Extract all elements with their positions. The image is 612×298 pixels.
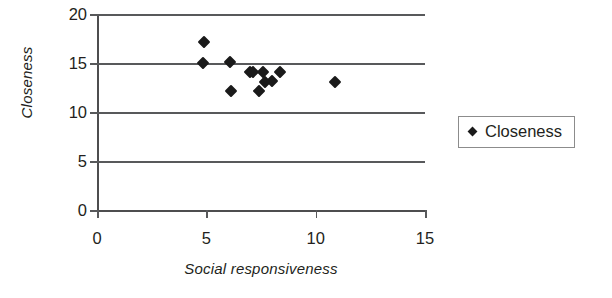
gridline-y bbox=[97, 63, 425, 65]
x-axis-line bbox=[97, 210, 425, 212]
gridline-y bbox=[97, 161, 425, 163]
y-tick-label: 5 bbox=[51, 153, 87, 170]
x-axis-tick bbox=[206, 210, 208, 218]
data-point-marker bbox=[329, 75, 342, 88]
x-axis-title: Social responsiveness bbox=[97, 260, 425, 277]
x-tick-label: 0 bbox=[77, 230, 117, 247]
y-axis-tick bbox=[90, 63, 99, 65]
y-tick-label: 20 bbox=[51, 6, 87, 23]
data-point-marker bbox=[197, 57, 210, 70]
data-point-marker bbox=[225, 85, 238, 98]
y-axis-tick bbox=[90, 161, 99, 163]
y-tick-label: 10 bbox=[51, 104, 87, 121]
x-axis-tick bbox=[316, 210, 318, 218]
legend-label-closeness: Closeness bbox=[485, 123, 562, 140]
data-point-marker bbox=[273, 65, 286, 78]
y-tick-label: 0 bbox=[51, 202, 87, 219]
plot-area: 05101520 051015 bbox=[97, 14, 425, 212]
gridline-y bbox=[97, 14, 425, 16]
y-axis-title: Closeness bbox=[18, 13, 35, 153]
legend-diamond-icon bbox=[468, 126, 478, 136]
scatter-chart-figure: Closeness 05101520 051015 Social respons… bbox=[0, 0, 612, 298]
x-tick-label: 15 bbox=[405, 230, 445, 247]
data-point-marker bbox=[224, 56, 237, 69]
x-tick-label: 5 bbox=[186, 230, 226, 247]
legend: Closeness bbox=[458, 116, 575, 148]
gridline-y bbox=[97, 112, 425, 114]
data-point-marker bbox=[198, 36, 211, 49]
x-tick-label: 10 bbox=[296, 230, 336, 247]
y-axis-tick bbox=[90, 14, 99, 16]
x-axis-tick bbox=[97, 210, 99, 218]
y-tick-label: 15 bbox=[51, 55, 87, 72]
x-axis-tick bbox=[425, 210, 427, 218]
y-axis-tick bbox=[90, 112, 99, 114]
